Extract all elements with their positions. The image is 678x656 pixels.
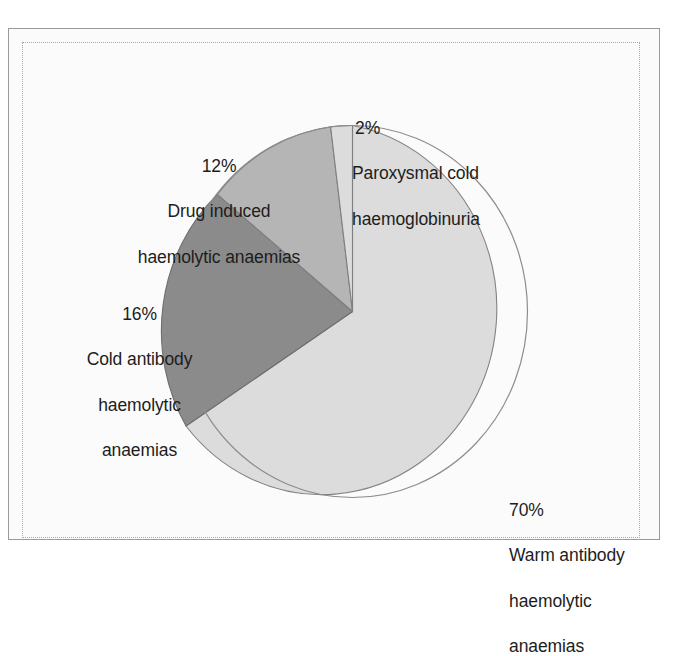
pie-label-pch-percent: 2% (352, 117, 572, 140)
pie-label-warm-line3: anaemias (509, 635, 678, 656)
pie-chart-plot-area: 2% Paroxysmal cold haemoglobinuria 12% D… (22, 42, 640, 538)
pie-label-warm-line2: haemolytic (509, 590, 678, 613)
pie-label-drug-induced-haemolytic-anaemias: 12% Drug induced haemolytic anaemias (94, 132, 344, 291)
pie-label-drug-line1: Drug induced (94, 200, 344, 223)
pie-label-warm-line1: Warm antibody (509, 544, 678, 567)
pie-label-warm-antibody-haemolytic-anaemias: 70% Warm antibody haemolytic anaemias (509, 476, 678, 656)
pie-label-warm-percent: 70% (509, 499, 678, 522)
pie-label-cold-antibody-haemolytic-anaemias: 16% Cold antibody haemolytic anaemias (32, 280, 247, 485)
pie-label-cold-line3: anaemias (32, 439, 247, 462)
pie-label-cold-line1: Cold antibody (32, 348, 247, 371)
pie-label-drug-percent: 12% (94, 155, 344, 178)
pie-label-drug-line2: haemolytic anaemias (94, 246, 344, 269)
pie-label-pch-line1: Paroxysmal cold (352, 162, 572, 185)
pie-label-paroxysmal-cold-haemoglobinuria: 2% Paroxysmal cold haemoglobinuria (352, 94, 572, 253)
pie-label-cold-percent: 16% (32, 303, 247, 326)
pie-label-cold-line2: haemolytic (32, 394, 247, 417)
pie-label-pch-line2: haemoglobinuria (352, 208, 572, 231)
